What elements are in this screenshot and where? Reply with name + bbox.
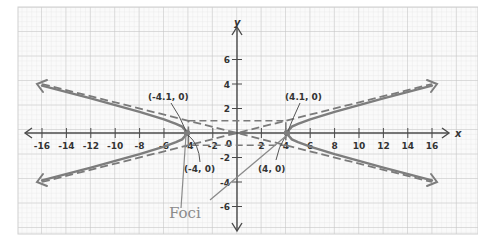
right-vertex-label: (4, 0) bbox=[258, 164, 285, 174]
foci-label: Foci bbox=[169, 204, 201, 222]
origin-label: 0 bbox=[226, 139, 232, 149]
y-tick-label: -4 bbox=[220, 178, 230, 188]
x-tick-label: 16 bbox=[426, 141, 439, 151]
y-tick-label: -6 bbox=[220, 202, 230, 212]
left-focus-point bbox=[184, 130, 190, 136]
x-tick-label: -10 bbox=[107, 141, 123, 151]
x-tick-label: 10 bbox=[353, 141, 366, 151]
x-tick-label: 14 bbox=[402, 141, 415, 151]
x-tick-label: 8 bbox=[331, 141, 337, 151]
right-focus-point bbox=[284, 130, 290, 136]
x-tick-label: -14 bbox=[58, 141, 74, 151]
x-tick-label: 12 bbox=[377, 141, 390, 151]
left-focus-label: (-4.1, 0) bbox=[148, 92, 189, 102]
y-axis-label: y bbox=[234, 17, 241, 28]
x-tick-label: -12 bbox=[83, 141, 99, 151]
y-tick-label: -2 bbox=[220, 153, 230, 163]
y-tick-label: 4 bbox=[224, 80, 230, 90]
y-tick-label: 2 bbox=[224, 104, 230, 114]
x-axis-label: x bbox=[454, 128, 462, 139]
hyperbola-graph: -16 -14 -12 -10 -8 -6 -4 -2 0 2 4 6 8 10… bbox=[0, 0, 478, 242]
x-tick-label: -16 bbox=[34, 141, 50, 151]
y-tick-label: 6 bbox=[224, 55, 230, 65]
left-vertex-label: (-4, 0) bbox=[184, 164, 215, 174]
x-tick-label: -8 bbox=[135, 141, 145, 151]
right-focus-label: (4.1, 0) bbox=[285, 92, 322, 102]
